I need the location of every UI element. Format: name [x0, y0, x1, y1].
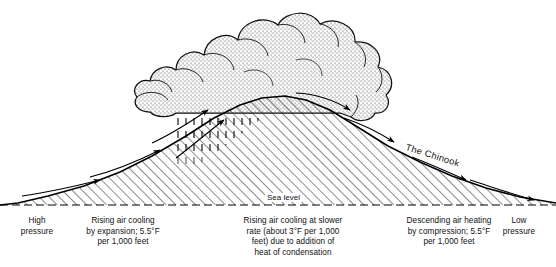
hatched-mountain: [0, 96, 556, 205]
caption-low-pressure: Low pressure: [486, 216, 552, 237]
caption-windward-cooling: Rising air cooling by expansion; 5.5°F p…: [48, 216, 198, 248]
diagram-canvas: Sea level The Chinook High pressure Risi…: [0, 0, 556, 267]
caption-slower-cooling: Rising air cooling at slower rate (about…: [208, 216, 378, 258]
sea-level-label: Sea level: [265, 193, 302, 202]
